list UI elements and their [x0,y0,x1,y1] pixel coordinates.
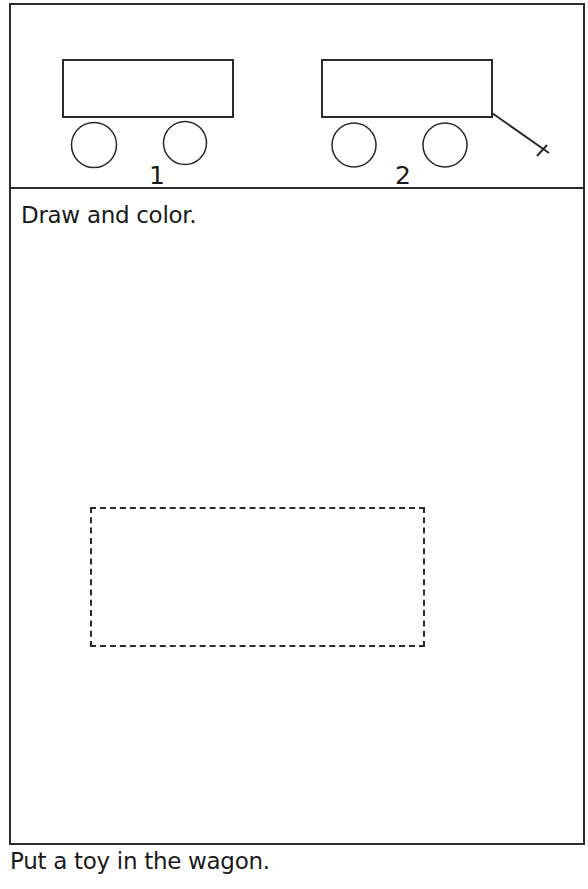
worksheet-frame: 1 2 Draw and color. [9,3,585,845]
wagon-2-icon [321,59,566,179]
drawing-area[interactable] [11,189,583,843]
wagon-examples-panel: 1 2 [11,5,583,189]
wagon-2 [321,59,566,179]
wagon-2-number: 2 [395,163,411,188]
instruction-text: Draw and color. [21,202,196,228]
footer-instruction: Put a toy in the wagon. [10,848,270,874]
wagon-handle [492,113,549,153]
wagon-outline-dashed[interactable] [90,507,425,647]
wagon-1-number: 1 [149,163,165,188]
